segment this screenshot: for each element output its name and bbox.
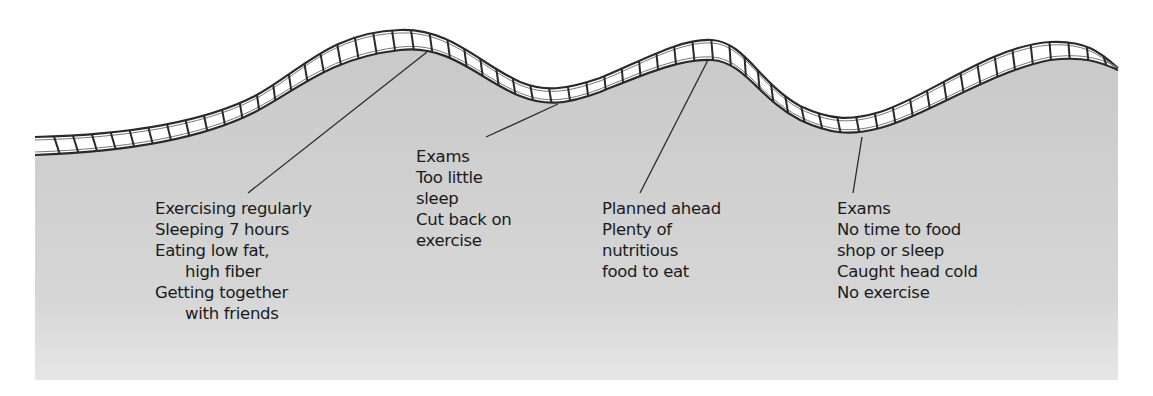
annotation-line: Plenty of	[602, 219, 721, 240]
annotation-line: Getting together	[155, 282, 312, 303]
track-rung	[622, 69, 623, 83]
annotation-line: sleep	[416, 188, 511, 209]
annotation-line: Too little	[416, 167, 511, 188]
annotation-peak-2: Planned ahead Plenty of nutritious food …	[602, 198, 721, 282]
track-rung	[1068, 42, 1069, 58]
annotation-line: Exams	[416, 146, 511, 167]
annotation-line: Planned ahead	[602, 198, 721, 219]
annotation-line: Exercising regularly	[155, 198, 312, 219]
annotation-peak-1: Exercising regularly Sleeping 7 hours Ea…	[155, 198, 312, 324]
annotation-line: Cut back on	[416, 209, 511, 230]
annotation-dip-2: Exams No time to food shop or sleep Caug…	[837, 198, 978, 303]
track-rung	[639, 61, 640, 76]
annotation-line: food to eat	[602, 261, 721, 282]
track-rung	[604, 76, 605, 89]
annotation-line: nutritious	[602, 240, 721, 261]
annotation-line: Eating low fat,	[155, 240, 312, 261]
annotation-line: No exercise	[837, 282, 978, 303]
annotation-line: high fiber	[155, 261, 312, 282]
annotation-line: exercise	[416, 230, 511, 251]
annotation-line: with friends	[155, 303, 312, 324]
annotation-line: Caught head cold	[837, 261, 978, 282]
annotation-line: Exams	[837, 198, 978, 219]
track-rung	[729, 45, 730, 65]
annotation-line: Sleeping 7 hours	[155, 219, 312, 240]
annotation-dip-1: Exams Too little sleep Cut back on exerc…	[416, 146, 511, 251]
annotation-line: No time to food	[837, 219, 978, 240]
annotation-line: shop or sleep	[837, 240, 978, 261]
